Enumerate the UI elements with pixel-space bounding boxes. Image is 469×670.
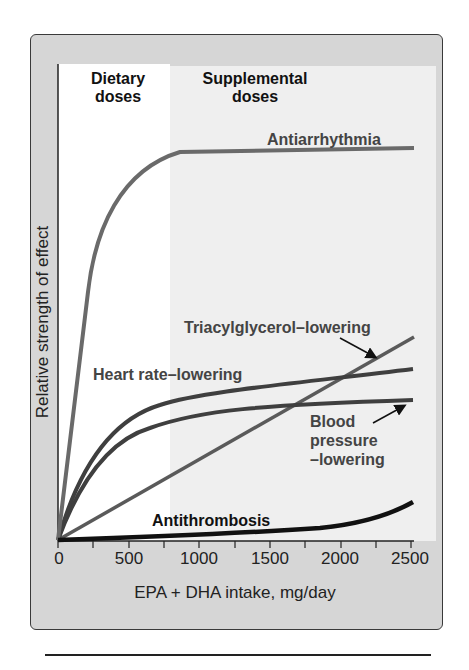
y-axis-label: Relative strength of effect (33, 226, 53, 418)
antiarrhythmia-label: Antiarrhythmia (267, 130, 381, 149)
xtick-500: 500 (115, 549, 143, 569)
blood-pressure-label: Blood pressure –lowering (310, 412, 385, 469)
bp-label-line1: Blood (310, 412, 385, 431)
dietary-region (58, 64, 170, 541)
bottom-rule (45, 654, 431, 656)
triacylglycerol-label: Triacylglycerol–lowering (184, 318, 371, 337)
xtick-1500: 1500 (251, 549, 289, 569)
xtick-2500: 2500 (391, 549, 429, 569)
bp-label-line3: –lowering (310, 450, 385, 469)
supplemental-doses-label: Supplemental doses (190, 70, 320, 106)
x-ticks (58, 541, 411, 548)
supplemental-label-line2: doses (190, 88, 320, 106)
dietary-doses-label: Dietary doses (66, 70, 170, 106)
dietary-label-line2: doses (66, 88, 170, 106)
x-axis-label: EPA + DHA intake, mg/day (134, 583, 335, 603)
heart-rate-label: Heart rate–lowering (93, 365, 242, 384)
dietary-label-line1: Dietary (66, 70, 170, 88)
supplemental-label-line1: Supplemental (190, 70, 320, 88)
xtick-0: 0 (54, 549, 63, 569)
xtick-2000: 2000 (321, 549, 359, 569)
antithrombosis-label: Antithrombosis (152, 511, 270, 530)
xtick-1000: 1000 (180, 549, 218, 569)
bp-label-line2: pressure (310, 431, 385, 450)
